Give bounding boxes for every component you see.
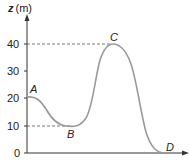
point-label-a: A	[29, 83, 37, 95]
point-label-d: D	[166, 141, 174, 153]
point-label-c: C	[110, 31, 118, 43]
height-curve	[27, 44, 165, 153]
point-label-b: B	[67, 128, 74, 140]
tick-label-10: 10	[7, 120, 19, 132]
tick-label-20: 20	[7, 92, 19, 104]
x-axis-arrow-icon	[182, 151, 189, 156]
tick-label-0: 0	[14, 147, 20, 159]
height-profile-diagram: z(m) 40 30 20 10 0 A B C D	[0, 0, 191, 164]
y-axis-title: z(m)	[7, 2, 32, 14]
tick-label-30: 30	[7, 65, 19, 77]
tick-label-40: 40	[7, 38, 19, 50]
y-axis-arrow-icon	[25, 14, 30, 21]
